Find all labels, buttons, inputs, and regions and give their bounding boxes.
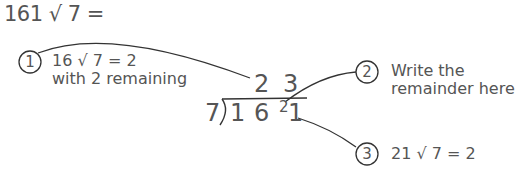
divisor: 7: [205, 99, 220, 127]
dividend-digit-2: 6: [254, 99, 269, 127]
step-1-number: 1: [19, 51, 41, 73]
step-1-line-1: 16 √ 7 = 2: [52, 52, 137, 70]
dividend-digit-1: 1: [230, 99, 245, 127]
quotient: 2 3: [254, 70, 298, 98]
division-bracket: [220, 99, 226, 125]
step-2-line-1: Write the: [391, 62, 465, 80]
step-2-line-2: remainder here: [391, 80, 515, 98]
step-3-number: 3: [356, 143, 378, 165]
step-3-line-1: 21 √ 7 = 2: [391, 145, 476, 163]
step-2-number: 2: [356, 61, 378, 83]
connector-step-3: [298, 118, 356, 147]
step-1-line-2: with 2 remaining: [52, 70, 187, 88]
dividend-digit-3: 1: [288, 99, 303, 127]
